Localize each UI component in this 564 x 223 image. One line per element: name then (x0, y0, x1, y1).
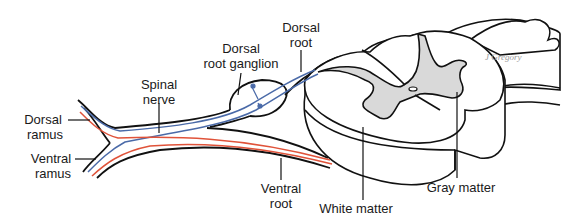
label-dorsal-root: Dorsalroot (282, 20, 320, 50)
label-gray-matter: Gray matter (427, 180, 496, 195)
label-dorsal-root-ganglion: Dorsalroot ganglion (203, 41, 278, 71)
label-ventral-ramus: Ventralramus (31, 151, 72, 181)
sensory-fibers (81, 70, 318, 172)
ganglion-cells (251, 84, 262, 108)
spinal-cord (304, 31, 505, 185)
artist-signature: J Gregory (485, 52, 521, 62)
label-dorsal-ramus: Dorsalramus (24, 112, 63, 142)
spinal-nerve-diagram: Dorsalroot Dorsalroot ganglion Spinalner… (0, 0, 564, 223)
label-spinal-nerve: Spinalnerve (141, 77, 177, 107)
label-white-matter: White matter (319, 201, 393, 216)
label-ventral-root: Ventralroot (261, 181, 302, 211)
nerve-outline (78, 74, 330, 178)
